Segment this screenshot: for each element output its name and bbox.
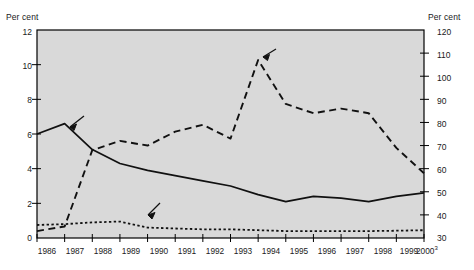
plot-background	[37, 30, 424, 238]
chart-plot-area	[0, 0, 474, 270]
chart-figure: Per cent Per cent 12 10 8 6 4 2 0 120 11…	[0, 0, 474, 270]
